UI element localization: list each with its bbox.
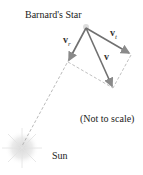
not-to-scale-note: (Not to scale)	[80, 113, 134, 124]
vr-label: vr	[63, 34, 71, 48]
radial-velocity-arrow	[69, 28, 86, 60]
sun-label: Sun	[52, 150, 68, 161]
dashed-parallel-2	[113, 55, 131, 88]
barnards-star-velocity-diagram: Barnard's Star vr vt v (Not to scale) Su…	[0, 0, 143, 175]
star-label: Barnard's Star	[25, 9, 82, 20]
vt-label: vt	[110, 27, 117, 41]
v-label: v	[104, 51, 109, 62]
sun-icon	[2, 128, 42, 168]
diagram-canvas	[0, 0, 143, 175]
